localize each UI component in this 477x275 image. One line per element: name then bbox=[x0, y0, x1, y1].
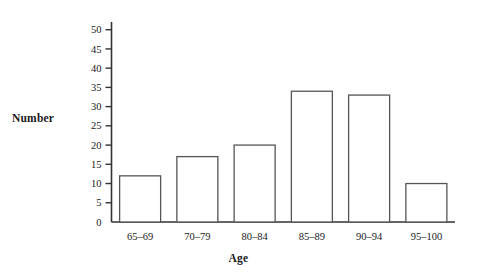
y-axis-tick-label: 25 bbox=[91, 120, 102, 131]
y-axis-tick-label: 50 bbox=[91, 24, 102, 35]
x-axis-category-labels: 65–6970–7980–8485–8990–9495–100 bbox=[127, 231, 442, 242]
x-axis-category-label: 80–84 bbox=[242, 231, 269, 242]
bar bbox=[291, 91, 332, 222]
y-axis-tick-label: 20 bbox=[91, 140, 102, 151]
bar-group bbox=[120, 91, 447, 222]
y-axis-tick-label: 30 bbox=[91, 101, 102, 112]
plot-area: 05101520253035404550 65–6970–7980–8485–8… bbox=[0, 0, 477, 275]
y-axis-tick-label: 45 bbox=[91, 44, 102, 55]
y-axis-ticks: 05101520253035404550 bbox=[91, 24, 112, 227]
bar bbox=[406, 184, 447, 222]
x-axis-title: Age bbox=[0, 252, 477, 264]
bar-chart: Number 05101520253035404550 65–6970–7980… bbox=[0, 0, 477, 275]
y-axis-tick-label: 15 bbox=[91, 159, 102, 170]
x-axis-category-label: 85–89 bbox=[299, 231, 325, 242]
y-axis-tick-label: 35 bbox=[91, 82, 102, 93]
x-axis-category-label: 95–100 bbox=[411, 231, 443, 242]
x-axis-category-label: 70–79 bbox=[184, 231, 210, 242]
y-axis-tick-label: 10 bbox=[91, 178, 102, 189]
bar bbox=[177, 157, 218, 222]
x-axis-category-label: 90–94 bbox=[356, 231, 383, 242]
y-axis-tick-label: 40 bbox=[91, 63, 102, 74]
y-axis-tick-label: 0 bbox=[96, 217, 101, 228]
bar bbox=[349, 95, 390, 222]
x-axis-category-label: 65–69 bbox=[127, 231, 153, 242]
bar bbox=[234, 145, 275, 222]
y-axis-tick-label: 5 bbox=[96, 197, 101, 208]
bar bbox=[120, 176, 161, 222]
